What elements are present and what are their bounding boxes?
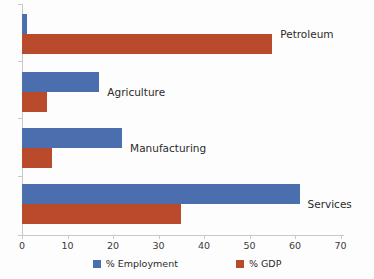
bar-gdp-petroleum bbox=[22, 34, 272, 54]
y-tick-mark bbox=[18, 118, 22, 119]
x-tick-label: 10 bbox=[61, 240, 73, 251]
bar-gdp-manufacturing bbox=[22, 148, 52, 168]
x-tick-label: 20 bbox=[107, 240, 119, 251]
bar-gdp-agriculture bbox=[22, 92, 47, 112]
category-label-services: Services bbox=[308, 199, 352, 210]
bar-employment-manufacturing bbox=[22, 128, 122, 148]
x-tick-mark bbox=[22, 235, 23, 239]
y-tick-mark bbox=[18, 61, 22, 62]
x-tick-mark bbox=[204, 235, 205, 239]
bar-gdp-services bbox=[22, 204, 181, 224]
x-tick-mark bbox=[295, 235, 296, 239]
x-tick-label: 50 bbox=[243, 240, 255, 251]
category-label-manufacturing: Manufacturing bbox=[130, 143, 206, 154]
x-tick-label: 0 bbox=[19, 240, 25, 251]
bar-employment-services bbox=[22, 184, 300, 204]
legend-item[interactable]: % Employment bbox=[93, 258, 178, 269]
x-tick-label: 30 bbox=[152, 240, 164, 251]
x-tick-mark bbox=[68, 235, 69, 239]
legend-swatch-icon bbox=[236, 260, 244, 268]
y-tick-mark bbox=[18, 176, 22, 177]
category-label-agriculture: Agriculture bbox=[107, 87, 165, 98]
x-tick-label: 70 bbox=[334, 240, 346, 251]
x-tick-mark bbox=[250, 235, 251, 239]
plot-area: PetroleumAgricultureManufacturingService… bbox=[22, 4, 349, 235]
x-tick-label: 60 bbox=[289, 240, 301, 251]
legend-swatch-icon bbox=[93, 260, 101, 268]
category-label-petroleum: Petroleum bbox=[280, 29, 333, 40]
x-tick-label: 40 bbox=[198, 240, 210, 251]
x-tick-mark bbox=[341, 235, 342, 239]
x-tick-mark bbox=[113, 235, 114, 239]
x-tick-mark bbox=[159, 235, 160, 239]
bar-chart: PetroleumAgricultureManufacturingService… bbox=[0, 0, 374, 279]
legend-label: % GDP bbox=[249, 258, 281, 269]
bar-employment-agriculture bbox=[22, 72, 99, 92]
legend-item[interactable]: % GDP bbox=[236, 258, 281, 269]
chart-legend: % Employment% GDP bbox=[0, 258, 374, 269]
legend-label: % Employment bbox=[106, 258, 178, 269]
bar-employment-petroleum bbox=[22, 14, 27, 34]
y-tick-mark bbox=[18, 4, 22, 5]
